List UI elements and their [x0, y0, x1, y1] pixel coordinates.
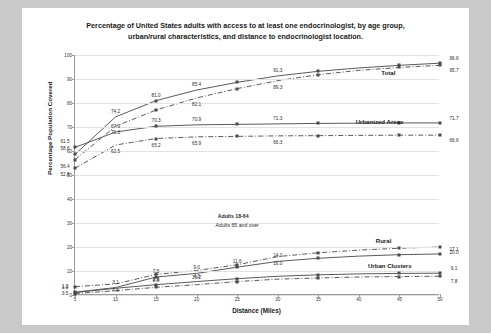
data-point-1-25	[236, 87, 239, 90]
series-line-5	[75, 254, 440, 292]
x-tick-label-10: 10	[113, 297, 118, 302]
y-tick-mark-70	[72, 127, 75, 128]
data-point-0-15	[155, 99, 158, 102]
gridline-y-90	[75, 79, 439, 80]
data-point-7-35	[317, 276, 320, 279]
data-point-5-50	[439, 252, 442, 255]
data-label-5-50: 17.1	[449, 246, 458, 251]
y-tick-label-100: 100	[64, 53, 72, 58]
data-point-5-25	[236, 266, 239, 269]
data-label-5-30: 14.0	[273, 253, 282, 258]
data-label-3-20: 65.9	[192, 140, 201, 145]
y-tick-mark-60	[72, 151, 75, 152]
y-tick-mark-100	[72, 55, 75, 56]
group-label-rural: Rural	[376, 236, 392, 243]
data-point-0-5	[74, 153, 77, 156]
data-point-5-35	[317, 257, 320, 260]
data-point-5-45	[398, 253, 401, 256]
chart-title-line-2: urban/rural characteristics, and distanc…	[52, 31, 439, 42]
x-tick-label-35: 35	[316, 297, 321, 302]
data-point-7-45	[398, 275, 401, 278]
data-label-5-15: 7.5	[153, 269, 160, 274]
data-label-1-10: 70.3	[111, 130, 120, 135]
x-tick-label-5: 5	[74, 297, 77, 302]
screenshot-root: Percentage of United States adults with …	[0, 0, 491, 333]
data-label-1-50: 95.7	[449, 68, 458, 73]
data-label-1-30: 89.3	[273, 84, 282, 89]
group-label-urbanized-areas: Urbanized Areas	[356, 118, 404, 125]
x-tick-label-30: 30	[275, 297, 280, 302]
data-label-7-50: 7.8	[451, 279, 458, 284]
data-point-3-35	[317, 134, 320, 137]
x-tick-label-40: 40	[356, 297, 361, 302]
data-point-1-15	[155, 108, 158, 111]
data-label-0-20: 85.4	[192, 82, 201, 87]
data-point-3-25	[236, 135, 239, 138]
gridline-y-0	[75, 295, 439, 296]
x-axis-label: Distance (Miles)	[74, 307, 439, 314]
data-point-4-5	[74, 285, 77, 288]
data-label-2-50: 71.7	[449, 115, 458, 120]
data-label-0-5: 58.6	[60, 146, 69, 151]
data-label-5-20: 9.0	[193, 265, 200, 270]
data-point-2-25	[236, 123, 239, 126]
data-label-0-10: 74.2	[111, 108, 120, 113]
x-tick-label-50: 50	[437, 297, 442, 302]
y-tick-mark-20	[72, 247, 75, 248]
gridline-y-70	[75, 127, 439, 128]
data-label-3-10: 62.5	[111, 149, 120, 154]
data-label-1-20: 82.1	[192, 101, 201, 106]
data-label-3-15: 65.2	[152, 142, 161, 147]
data-point-0-25	[236, 81, 239, 84]
data-point-3-5	[74, 167, 77, 170]
data-label-0-15: 81.0	[152, 92, 161, 97]
data-point-3-45	[398, 134, 401, 137]
data-point-3-15	[155, 137, 158, 140]
x-tick-label-20: 20	[194, 297, 199, 302]
gridline-y-40	[75, 199, 439, 200]
data-point-4-50	[439, 246, 442, 249]
gridline-y-50	[75, 175, 439, 176]
data-label-0-50: 96.6	[449, 56, 458, 61]
data-point-4-35	[317, 251, 320, 254]
data-point-2-5	[74, 146, 77, 149]
data-point-2-50	[439, 121, 442, 124]
data-label-2-30: 71.3	[273, 115, 282, 120]
data-label-5-10: 3.1	[112, 279, 119, 284]
gridline-y-60	[75, 151, 439, 152]
data-point-7-25	[236, 280, 239, 283]
data-label-2-15: 70.3	[152, 118, 161, 123]
y-tick-mark-90	[72, 79, 75, 80]
gridline-y-20	[75, 247, 439, 248]
y-axis-label: Percentage Population Covered	[46, 81, 53, 175]
legend-label-adults-65-and-over: Adults 65 and over	[216, 222, 259, 228]
x-tick-label-15: 15	[154, 297, 159, 302]
x-tick-label-25: 25	[235, 297, 240, 302]
legend-label-adults-18-64: Adults 18-64	[218, 213, 249, 219]
group-label-urban-clusters: Urban Clusters	[368, 262, 412, 269]
data-label-2-20: 70.9	[192, 116, 201, 121]
chart-title: Percentage of United States adults with …	[52, 20, 439, 42]
data-label-5-25: 11.6	[233, 259, 242, 264]
data-point-1-5	[74, 158, 77, 161]
data-label-3-30: 66.3	[273, 139, 282, 144]
data-label-4-10: 4.6	[112, 287, 119, 292]
series-line-0	[75, 63, 440, 154]
gridline-y-100	[75, 55, 439, 56]
data-point-2-35	[317, 122, 320, 125]
gridline-y-80	[75, 103, 439, 104]
data-point-2-15	[155, 125, 158, 128]
data-label-1-5: 56.4	[60, 163, 69, 168]
x-tick-label-45: 45	[397, 297, 402, 302]
data-label-6-20: 4.3	[193, 273, 200, 278]
group-label-total: Total	[381, 68, 395, 75]
y-tick-mark-10	[72, 271, 75, 272]
data-point-7-5	[74, 292, 77, 295]
data-label-6-50: 9.1	[451, 266, 458, 271]
data-point-4-45	[398, 247, 401, 250]
data-label-6-5: 1.0	[62, 284, 69, 289]
data-label-4-5: 3.5	[62, 290, 69, 295]
data-label-6-15: 2.8	[153, 276, 160, 281]
data-point-3-50	[439, 134, 442, 137]
series-line-7	[75, 276, 440, 293]
